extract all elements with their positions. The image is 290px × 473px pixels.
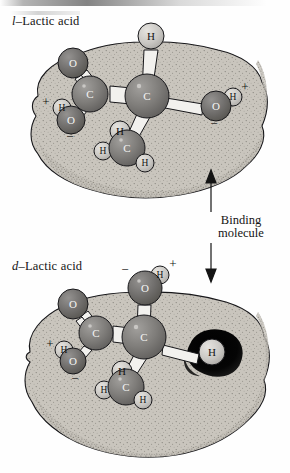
svg-text:H: H [208,346,216,358]
svg-text:H: H [118,365,126,377]
binding-molecule-label: Binding molecule [199,214,283,240]
svg-text:H: H [230,92,237,102]
svg-text:H: H [142,158,149,168]
svg-text:−: − [71,371,78,386]
binding-molecule-label-line2: molecule [199,227,283,240]
svg-text:H: H [101,385,108,395]
svg-text:O: O [69,355,77,367]
svg-text:H: H [157,270,164,280]
svg-text:O: O [69,298,77,310]
label-d-lactic-acid: d–Lactic acid [12,259,82,274]
svg-text:+: + [241,79,248,94]
label-d-rest: –Lactic acid [18,259,82,273]
svg-text:H: H [140,395,147,405]
label-l-lactic-acid: l–Lactic acid [12,14,80,29]
svg-text:O: O [67,114,75,126]
svg-text:H: H [147,30,155,42]
svg-text:−: − [121,262,128,277]
svg-text:C: C [86,88,93,100]
svg-text:−: − [66,129,73,144]
svg-text:+: + [169,256,176,271]
svg-text:C: C [140,331,147,343]
svg-text:+: + [42,94,49,109]
svg-text:H: H [61,345,68,355]
svg-text:−: − [210,116,217,131]
svg-text:+: + [46,336,53,351]
svg-text:O: O [212,100,220,112]
svg-text:H: H [116,125,124,137]
svg-text:O: O [141,282,149,294]
lactic-acid-binding-figure: O H O C H H O C H H C H + − + − [0,0,290,473]
svg-text:C: C [122,381,129,393]
label-l-rest: –Lactic acid [16,14,80,28]
svg-text:C: C [92,327,99,339]
svg-text:C: C [123,142,130,154]
svg-text:H: H [59,103,66,113]
svg-text:O: O [69,57,77,69]
svg-text:C: C [143,90,150,102]
svg-text:H: H [100,146,107,156]
